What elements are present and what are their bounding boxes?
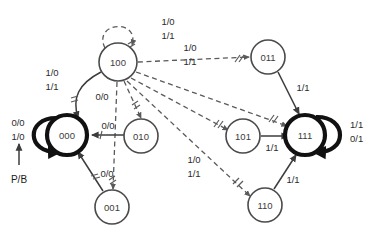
edge-label-self-100-b: 1/1	[161, 30, 174, 41]
edge-label-101-111: 1/1	[265, 142, 278, 153]
state-node-111[interactable]: 111	[285, 115, 325, 155]
edge-011-to-111	[278, 72, 299, 114]
reset-button-label: P/B	[11, 174, 27, 185]
state-node-011[interactable]: 011	[251, 40, 285, 74]
edge-010-to-000	[92, 131, 124, 139]
state-node-101[interactable]: 101	[226, 119, 260, 153]
state-node-100[interactable]: 100	[99, 43, 137, 81]
edge-label-self-111-a: 1/1	[350, 119, 363, 130]
edge-label-self-100-a: 1/0	[161, 16, 174, 27]
edge-label-left-a: 1/0	[45, 67, 58, 78]
edge-label-011-111: 1/1	[296, 82, 309, 93]
edge-label-mid-a: 1/0	[187, 154, 200, 165]
edge-100-to-010	[124, 81, 141, 118]
edge-label-100-011-b: 1/1	[183, 56, 196, 67]
edge-label-left-b: 1/1	[45, 81, 58, 92]
edge-001-to-000	[78, 152, 103, 191]
state-node-001[interactable]: 001	[95, 190, 129, 224]
state-node-000[interactable]: 000	[47, 115, 87, 155]
state-label-101: 101	[235, 131, 251, 142]
edge-label-100-000: 0/0	[95, 91, 108, 102]
edge-label-mid-b: 1/1	[187, 168, 200, 179]
reset-label-input-a: 0/0	[11, 117, 24, 128]
state-label-110: 110	[257, 200, 272, 211]
state-node-010[interactable]: 010	[124, 119, 158, 153]
edge-label-110-111: 1/1	[286, 174, 299, 185]
edge-label-010-000: 0/0	[101, 120, 114, 131]
state-label-010: 010	[133, 131, 149, 142]
state-label-111: 111	[298, 130, 312, 141]
state-label-000: 000	[59, 130, 75, 141]
state-label-011: 011	[260, 52, 275, 63]
state-diagram-canvas: 1/0 1/1 1/0 1/1 1/0 1/1	[0, 0, 378, 236]
reset-label-input-b: 1/0	[11, 131, 24, 142]
state-transition-diagram: 1/0 1/1 1/0 1/1 1/0 1/1	[0, 0, 378, 236]
state-node-110[interactable]: 110	[248, 188, 282, 222]
edge-label-100-011-a: 1/0	[183, 42, 196, 53]
state-label-001: 001	[104, 202, 120, 213]
edge-100-to-111-upper	[136, 72, 287, 126]
edge-label-self-111-b: 0/1	[350, 133, 363, 144]
state-label-100: 100	[110, 57, 126, 68]
edge-label-001-000: 0/0	[100, 168, 113, 179]
